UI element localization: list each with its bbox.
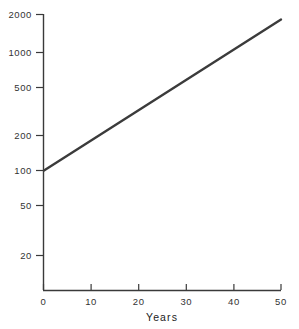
y-tick-label-50: 50 — [20, 200, 32, 211]
y-tick-label-500: 500 — [14, 82, 32, 93]
x-tick-label-40: 40 — [228, 296, 240, 307]
y-tick-label-2000: 2000 — [8, 9, 32, 20]
x-tick-label-10: 10 — [85, 296, 97, 307]
chart-container: 2000 1000 500 200 100 50 20 0 10 20 30 4… — [0, 0, 299, 329]
chart-background — [0, 0, 299, 329]
x-tick-label-50: 50 — [275, 296, 287, 307]
y-tick-label-200: 200 — [14, 130, 32, 141]
x-axis-title: Years — [146, 311, 178, 323]
y-tick-label-1000: 1000 — [8, 47, 32, 58]
y-tick-label-20: 20 — [20, 250, 32, 261]
x-tick-label-0: 0 — [41, 296, 47, 307]
x-tick-label-20: 20 — [133, 296, 145, 307]
x-tick-label-30: 30 — [180, 296, 192, 307]
y-tick-label-100: 100 — [14, 165, 32, 176]
semilog-line-chart: 2000 1000 500 200 100 50 20 0 10 20 30 4… — [0, 0, 299, 329]
